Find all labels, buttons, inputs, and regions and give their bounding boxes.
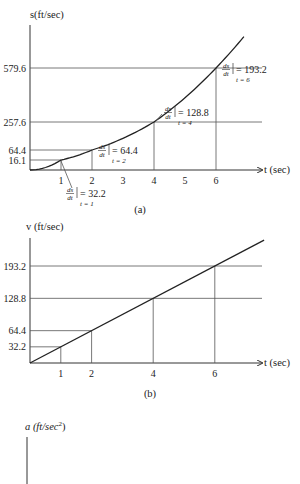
chart-a-position-vs-time: s(ft/sec) t (sec) 16.164.4257.6579.6 123… bbox=[4, 9, 291, 216]
derivative-denominator: dt bbox=[223, 70, 230, 78]
derivative-denominator: dt bbox=[99, 151, 106, 159]
chart-c-y-axis-label: a (ft/sec2) bbox=[25, 420, 66, 433]
derivative-at-time: t = 4 bbox=[178, 119, 192, 127]
chart-b-x-tick-label: 6 bbox=[212, 368, 217, 379]
derivative-value: = 128.8 bbox=[178, 107, 209, 118]
chart-b-y-tick-label: 64.4 bbox=[9, 325, 27, 336]
derivative-denominator: dt bbox=[67, 194, 74, 202]
chart-b-caption: (b) bbox=[144, 388, 157, 400]
derivative-numerator: ds bbox=[67, 186, 74, 194]
chart-a-derivative-annotation: dsdt= 128.8t = 4 bbox=[156, 105, 209, 127]
chart-b-velocity-line bbox=[30, 240, 264, 363]
chart-a-x-tick-label: 2 bbox=[90, 175, 95, 186]
chart-a-y-tick-label: 16.1 bbox=[9, 155, 27, 166]
chart-b-x-tick-label: 1 bbox=[58, 368, 63, 379]
derivative-numerator: ds bbox=[223, 62, 230, 70]
chart-a-caption: (a) bbox=[134, 204, 146, 216]
chart-a-x-tick-label: 6 bbox=[214, 175, 219, 186]
chart-a-y-axis-label: s(ft/sec) bbox=[30, 9, 64, 21]
chart-a-x-tick-label: 3 bbox=[121, 175, 126, 186]
derivative-at-time: t = 2 bbox=[112, 157, 126, 165]
chart-a-derivative-annotation: dsdt= 32.2t = 1 bbox=[61, 161, 106, 208]
derivative-value: = 32.2 bbox=[80, 188, 106, 199]
chart-b-x-tick-label: 2 bbox=[89, 368, 94, 379]
chart-a-derivative-annotation: dsdt= 64.4t = 2 bbox=[98, 143, 138, 165]
chart-a-x-tick-label: 5 bbox=[183, 175, 188, 186]
chart-a-x-tick-label: 4 bbox=[152, 175, 157, 186]
chart-a-y-tick-label: 64.4 bbox=[9, 145, 27, 156]
chart-b-y-tick-label: 128.8 bbox=[4, 293, 27, 304]
derivative-at-time: t = 1 bbox=[80, 200, 94, 208]
derivative-value: = 64.4 bbox=[112, 145, 138, 156]
chart-a-y-tick-label: 579.6 bbox=[4, 63, 27, 74]
derivative-denominator: dt bbox=[165, 113, 172, 121]
derivative-at-time: t = 6 bbox=[236, 76, 250, 84]
derivative-value: = 193.2 bbox=[236, 64, 267, 75]
chart-a-x-axis-label: t (sec) bbox=[264, 164, 290, 176]
derivative-numerator: ds bbox=[165, 105, 172, 113]
chart-a-y-tick-label: 257.6 bbox=[4, 117, 27, 128]
chart-b-y-tick-label: 193.2 bbox=[4, 261, 27, 272]
derivative-numerator: ds bbox=[99, 143, 106, 151]
chart-a-x-tick-label: 1 bbox=[59, 175, 64, 186]
chart-a-derivative-annotation: dsdt= 193.2t = 6 bbox=[222, 62, 267, 84]
chart-c-acceleration-vs-time: a (ft/sec2) bbox=[25, 420, 66, 484]
chart-b-x-axis-label: t (sec) bbox=[264, 357, 290, 369]
chart-b-y-axis-label: v (ft/sec) bbox=[26, 221, 64, 233]
figure: s(ft/sec) t (sec) 16.164.4257.6579.6 123… bbox=[0, 0, 300, 484]
chart-b-velocity-vs-time: v (ft/sec) t (sec) 32.264.4128.8193.2 12… bbox=[4, 221, 291, 400]
chart-b-y-tick-label: 32.2 bbox=[9, 341, 27, 352]
chart-b-x-tick-label: 4 bbox=[151, 368, 156, 379]
